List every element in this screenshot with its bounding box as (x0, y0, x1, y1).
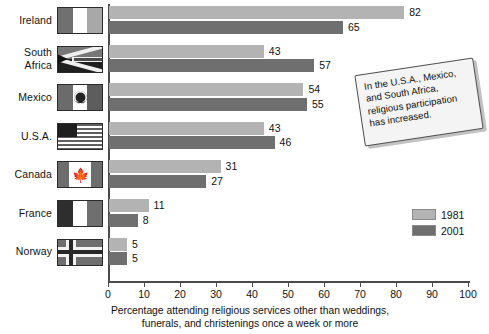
x-axis-tick-label: 90 (426, 288, 438, 300)
bar-value-label: 5 (132, 238, 138, 251)
country-label-line: Mexico (18, 91, 52, 104)
country-label-ireland: Ireland (0, 2, 52, 38)
flag-france-icon (57, 200, 103, 227)
x-axis-tick-label: 20 (174, 288, 186, 300)
bar-south-africa-1981 (109, 45, 264, 58)
country-label-norway: Norway (0, 234, 52, 270)
x-axis-tick-label: 10 (138, 288, 150, 300)
legend-swatch (412, 209, 436, 220)
bar-value-label: 65 (348, 21, 360, 34)
x-axis-tick-label: 50 (282, 288, 294, 300)
bar-chart: IrelandSouthAfricaMexicoU.S.A.Canada🍁Fra… (0, 0, 489, 334)
bar-france-1981 (109, 199, 149, 212)
bar-u-s-a-2001 (109, 136, 275, 149)
country-label-south-africa: SouthAfrica (0, 41, 52, 77)
bar-value-label: 11 (154, 199, 165, 212)
x-axis-tick (360, 282, 361, 287)
x-axis-tick-label: 40 (246, 288, 258, 300)
x-axis-tick-label: 100 (459, 288, 477, 300)
bar-value-label: 8 (143, 214, 149, 227)
bar-u-s-a-1981 (109, 122, 264, 135)
bar-ireland-1981 (109, 6, 404, 19)
bar-value-label: 82 (409, 6, 421, 19)
x-axis-caption: Percentage attending religious services … (60, 305, 440, 330)
x-axis-tick-label: 30 (210, 288, 222, 300)
x-axis-tick (396, 282, 397, 287)
country-label-mexico: Mexico (0, 79, 52, 115)
bar-mexico-2001 (109, 98, 307, 111)
bar-france-2001 (109, 214, 138, 227)
x-axis-tick (144, 282, 145, 287)
x-axis-tick (252, 282, 253, 287)
x-axis-tick-label: 0 (105, 288, 111, 300)
bar-value-label: 43 (269, 122, 281, 135)
flag-mexico-icon (57, 84, 103, 111)
x-axis-tick (180, 282, 181, 287)
bar-norway-2001 (109, 252, 127, 265)
caption-line-1: Percentage attending religious services … (60, 305, 440, 318)
flag-ireland-icon (57, 7, 103, 34)
legend-label: 1981 (441, 209, 464, 221)
country-label-line: South (24, 46, 52, 59)
country-label-line: Africa (25, 59, 52, 72)
bar-value-label: 27 (211, 175, 223, 188)
x-axis-tick-label: 60 (318, 288, 330, 300)
x-axis-tick (324, 282, 325, 287)
country-label-line: U.S.A. (21, 130, 52, 143)
bar-mexico-1981 (109, 83, 303, 96)
x-axis-tick-label: 70 (354, 288, 366, 300)
country-label-france: France (0, 195, 52, 231)
legend-entry: 1981 (412, 208, 482, 221)
flag-canada-icon: 🍁 (57, 161, 103, 188)
legend-entry: 2001 (412, 224, 482, 237)
country-label-line: Ireland (19, 14, 52, 27)
legend-swatch (412, 225, 436, 236)
x-axis-tick (216, 282, 217, 287)
flag-norway-icon (57, 239, 103, 266)
bar-value-label: 55 (312, 98, 324, 111)
country-label-u-s-a: U.S.A. (0, 118, 52, 154)
bar-south-africa-2001 (109, 59, 314, 72)
country-label-canada: Canada (0, 156, 52, 192)
bar-norway-1981 (109, 238, 127, 251)
x-axis-tick (288, 282, 289, 287)
country-label-line: Canada (15, 168, 52, 181)
legend-label: 2001 (441, 225, 464, 237)
x-axis-tick (432, 282, 433, 287)
bar-value-label: 57 (319, 59, 331, 72)
country-label-line: France (19, 207, 52, 220)
x-axis-tick (108, 282, 109, 287)
bar-value-label: 31 (226, 160, 238, 173)
chart-legend: 19812001 (412, 208, 482, 240)
flag-south-africa-icon (57, 46, 103, 73)
bar-canada-1981 (109, 160, 221, 173)
bar-ireland-2001 (109, 21, 343, 34)
flag-usa-icon (57, 123, 103, 150)
x-axis-tick-label: 80 (390, 288, 402, 300)
x-axis-tick (468, 282, 469, 287)
country-label-line: Norway (16, 245, 52, 258)
bar-canada-2001 (109, 175, 206, 188)
bar-value-label: 5 (132, 252, 138, 265)
bar-value-label: 46 (280, 136, 292, 149)
caption-line-2: funerals, and christenings once a week o… (60, 318, 440, 331)
bar-value-label: 54 (308, 83, 320, 96)
bar-value-label: 43 (269, 45, 281, 58)
